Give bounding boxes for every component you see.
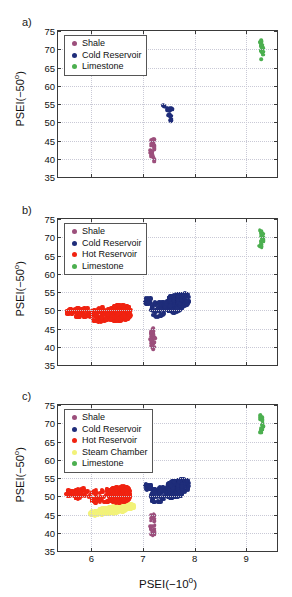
scatter-point xyxy=(149,528,153,532)
legend-item-steam-chamber[interactable]: Steam Chamber xyxy=(68,447,148,459)
y-tick-label: 65 xyxy=(44,250,55,261)
y-tick-label: 70 xyxy=(44,44,55,55)
y-tickmark xyxy=(58,442,61,443)
panel-a: a) PSEI(−50o) ShaleCold ReservoirLimesto… xyxy=(0,0,292,190)
legend-item-cold-reservoir[interactable]: Cold Reservoir xyxy=(68,50,142,62)
y-tickmark xyxy=(58,365,61,366)
scatter-point xyxy=(151,150,155,154)
x-tick-label: 7 xyxy=(140,553,145,564)
scatter-point xyxy=(151,534,155,538)
panel-a-plot-area: ShaleCold ReservoirLimestone 35404550556… xyxy=(57,30,278,178)
scatter-point xyxy=(154,336,158,340)
y-tickmark xyxy=(58,68,61,69)
y-tickmark-right xyxy=(274,515,277,516)
legend-marker-icon xyxy=(72,450,77,455)
y-tickmark-right xyxy=(274,310,277,311)
y-tickmark xyxy=(58,347,61,348)
x-tickmark xyxy=(143,548,144,551)
legend-item-limestone[interactable]: Limestone xyxy=(68,61,142,73)
legend-item-label: Limestone xyxy=(82,61,124,73)
x-tickmark xyxy=(91,174,92,177)
y-tick-label: 60 xyxy=(44,80,55,91)
legend-item-shale[interactable]: Shale xyxy=(68,38,142,50)
y-tick-label: 70 xyxy=(44,232,55,243)
y-tickmark-right xyxy=(274,442,277,443)
panel-c-y-axis-label: PSEI(−50o) xyxy=(12,432,26,518)
scatter-point xyxy=(126,316,130,320)
legend-item-limestone[interactable]: Limestone xyxy=(68,458,148,470)
x-tick-label: 9 xyxy=(243,553,248,564)
y-tickmark xyxy=(58,310,61,311)
y-tickmark-right xyxy=(274,478,277,479)
panel-b: b) PSEI(−50o) ShaleCold ReservoirHot Res… xyxy=(0,190,292,380)
y-tick-label: 65 xyxy=(44,62,55,73)
y-tick-label: 75 xyxy=(44,26,55,37)
y-tickmark-right xyxy=(274,122,277,123)
legend-item-hot-reservoir[interactable]: Hot Reservoir xyxy=(68,435,148,447)
legend-marker-icon xyxy=(72,252,77,257)
x-tickmark xyxy=(195,362,196,365)
y-tickmark xyxy=(58,86,61,87)
y-tickmark xyxy=(58,478,61,479)
x-tickmark xyxy=(246,362,247,365)
x-tickmark-top xyxy=(246,405,247,408)
gridline-vertical xyxy=(195,31,196,177)
y-tickmark-right xyxy=(274,496,277,497)
y-tickmark-right xyxy=(274,533,277,534)
x-tickmark xyxy=(246,174,247,177)
x-tickmark-top xyxy=(143,31,144,34)
legend-item-shale[interactable]: Shale xyxy=(68,226,142,238)
gridline-vertical xyxy=(195,405,196,551)
panel-a-label: a) xyxy=(22,16,32,28)
y-tick-label: 55 xyxy=(44,99,55,110)
y-tick-label: 40 xyxy=(44,527,55,538)
y-tick-label: 40 xyxy=(44,153,55,164)
x-tickmark-top xyxy=(246,31,247,34)
y-tick-label: 50 xyxy=(44,305,55,316)
x-axis-label: PSEI(−10o) xyxy=(139,576,197,590)
scatter-point xyxy=(119,319,123,323)
y-tickmark xyxy=(58,460,61,461)
y-tick-label: 55 xyxy=(44,473,55,484)
legend-marker-icon xyxy=(72,264,77,269)
y-tickmark-right xyxy=(274,405,277,406)
x-tickmark-top xyxy=(195,405,196,408)
y-tickmark-right xyxy=(274,68,277,69)
y-tick-label: 45 xyxy=(44,323,55,334)
x-tickmark-top xyxy=(143,219,144,222)
y-tickmark xyxy=(58,49,61,50)
scatter-point xyxy=(260,229,264,233)
legend-item-hot-reservoir[interactable]: Hot Reservoir xyxy=(68,249,142,261)
y-tickmark-right xyxy=(274,347,277,348)
y-tickmark xyxy=(58,141,61,142)
x-tickmark-top xyxy=(195,219,196,222)
legend-item-cold-reservoir[interactable]: Cold Reservoir xyxy=(68,238,142,250)
scatter-point xyxy=(186,487,190,491)
legend-item-shale[interactable]: Shale xyxy=(68,412,148,424)
panel-c-plot-area: ShaleCold ReservoirHot ReservoirSteam Ch… xyxy=(57,404,278,552)
y-tickmark xyxy=(58,551,61,552)
legend-item-label: Cold Reservoir xyxy=(82,424,142,436)
legend-item-label: Hot Reservoir xyxy=(82,249,137,261)
legend-item-label: Shale xyxy=(82,412,105,424)
panel-b-legend: ShaleCold ReservoirHot ReservoirLimeston… xyxy=(64,223,147,275)
y-tickmark xyxy=(58,423,61,424)
legend-marker-icon xyxy=(72,41,77,46)
y-tick-label: 70 xyxy=(44,418,55,429)
x-tickmark xyxy=(195,174,196,177)
y-tickmark-right xyxy=(274,141,277,142)
y-tickmark-right xyxy=(274,274,277,275)
y-tickmark-right xyxy=(274,31,277,32)
x-tickmark-top xyxy=(91,219,92,222)
y-tick-label: 50 xyxy=(44,491,55,502)
y-tickmark-right xyxy=(274,237,277,238)
legend-marker-icon xyxy=(72,53,77,58)
y-tickmark xyxy=(58,159,61,160)
gridline-vertical xyxy=(246,31,247,177)
y-tickmark xyxy=(58,405,61,406)
legend-marker-icon xyxy=(72,241,77,246)
legend-item-limestone[interactable]: Limestone xyxy=(68,261,142,273)
legend-marker-icon xyxy=(72,438,77,443)
y-tick-label: 35 xyxy=(44,172,55,183)
legend-item-cold-reservoir[interactable]: Cold Reservoir xyxy=(68,424,148,436)
